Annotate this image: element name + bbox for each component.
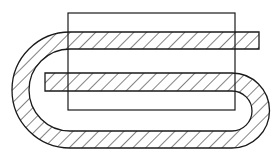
diagram-canvas: Folded hatched strip over rectangle bbox=[0, 0, 280, 163]
hatched-strip bbox=[12, 32, 270, 148]
rectangle-outline bbox=[68, 13, 235, 110]
folded-strip-diagram bbox=[0, 0, 280, 163]
